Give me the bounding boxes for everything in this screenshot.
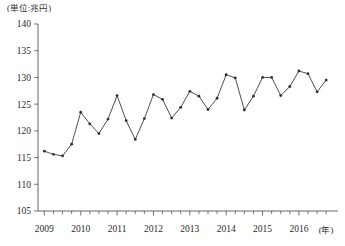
data-series-line xyxy=(44,71,326,156)
y-tick-label: 125 xyxy=(17,100,32,110)
data-point xyxy=(252,95,255,98)
data-point xyxy=(198,95,201,98)
y-tick-label: 135 xyxy=(17,46,32,56)
data-point xyxy=(207,108,210,111)
data-point xyxy=(125,119,128,122)
data-point xyxy=(152,93,155,96)
data-point xyxy=(143,117,146,120)
data-point xyxy=(52,153,55,156)
data-point xyxy=(234,77,237,80)
data-point xyxy=(188,90,191,93)
x-tick-label: 2010 xyxy=(71,224,90,234)
data-point xyxy=(98,132,101,135)
data-point xyxy=(216,97,219,100)
data-point xyxy=(298,70,301,73)
data-point xyxy=(316,90,319,93)
x-tick-label: 2014 xyxy=(217,224,236,234)
data-point xyxy=(70,143,73,146)
data-point xyxy=(170,117,173,120)
data-point xyxy=(279,94,282,97)
data-point xyxy=(225,73,228,76)
data-point xyxy=(179,106,182,109)
data-point xyxy=(107,118,110,121)
x-tick-label: 2015 xyxy=(253,224,272,234)
data-point xyxy=(61,155,64,158)
data-point xyxy=(116,94,119,97)
data-point xyxy=(43,150,46,153)
data-point xyxy=(307,72,310,75)
y-tick-label: 140 xyxy=(17,19,32,29)
data-series-points xyxy=(43,70,328,158)
data-point xyxy=(288,85,291,88)
x-tick-label: 2011 xyxy=(108,224,127,234)
source-caption xyxy=(4,238,204,246)
data-point xyxy=(270,76,273,79)
y-tick-label: 110 xyxy=(17,180,31,190)
data-point xyxy=(161,98,164,101)
x-tick-label: 2016 xyxy=(289,224,308,234)
x-tick-label: 2012 xyxy=(144,224,163,234)
x-tick-label: 2013 xyxy=(180,224,199,234)
data-point xyxy=(261,76,264,79)
y-tick-label: 105 xyxy=(17,206,32,216)
x-axis-ticks: 20092010201120122013201420152016 xyxy=(35,211,326,234)
data-point xyxy=(134,138,137,141)
y-tick-label: 130 xyxy=(17,73,32,83)
x-tick-label: 2009 xyxy=(35,224,54,234)
y-tick-label: 115 xyxy=(17,153,31,163)
chart-container: (単位:兆円) 105110115120125130135140 2009201… xyxy=(0,0,345,246)
data-point xyxy=(243,109,246,112)
data-point xyxy=(325,79,328,82)
line-chart-plot: 105110115120125130135140 200920102011201… xyxy=(0,0,345,246)
y-axis-ticks: 105110115120125130135140 xyxy=(17,19,38,216)
y-tick-label: 120 xyxy=(17,126,32,136)
data-point xyxy=(88,123,91,126)
x-axis-name-label: (年) xyxy=(319,225,334,235)
data-point xyxy=(79,111,82,114)
